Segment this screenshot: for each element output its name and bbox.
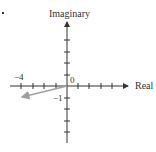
y-tick-label: −1 <box>53 93 63 103</box>
x-tick-label: −4 <box>14 72 24 82</box>
imaginary-axis-label: Imaginary <box>49 8 90 19</box>
figure-marker <box>2 12 4 14</box>
real-axis-label: Real <box>135 80 154 91</box>
origin-label: 0 <box>70 75 75 85</box>
